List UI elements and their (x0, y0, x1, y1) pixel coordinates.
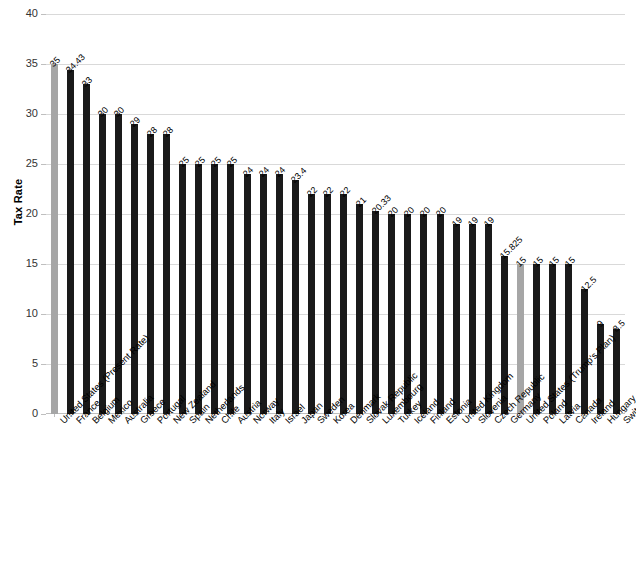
bar[interactable] (581, 289, 588, 414)
x-axis-category-label[interactable]: Greece (139, 418, 146, 425)
gridline (46, 64, 625, 65)
x-tick-mark (553, 414, 554, 417)
x-tick-mark (424, 414, 425, 417)
x-axis-category-label[interactable]: Netherlands (203, 418, 210, 425)
x-axis-category-label[interactable]: Hungary (605, 418, 612, 425)
bar[interactable] (67, 70, 74, 414)
x-tick-mark (488, 414, 489, 417)
bar[interactable] (453, 224, 460, 414)
x-tick-mark (199, 414, 200, 417)
x-tick-mark (360, 414, 361, 417)
bar[interactable] (372, 211, 379, 414)
x-tick-mark (456, 414, 457, 417)
x-tick-mark (167, 414, 168, 417)
bar[interactable] (388, 214, 395, 414)
bar[interactable] (83, 84, 90, 414)
x-tick-mark (311, 414, 312, 417)
x-axis-category-label[interactable]: Japan (300, 418, 307, 425)
x-axis-category-label[interactable]: United States (Present Rate) (58, 418, 65, 425)
bar[interactable] (179, 164, 186, 414)
y-axis-title: Tax Rate (12, 162, 24, 242)
bar[interactable] (163, 134, 170, 414)
y-tick-label: 40 (10, 8, 38, 19)
bar[interactable] (51, 64, 58, 414)
x-tick-mark (327, 414, 328, 417)
bar[interactable] (420, 214, 427, 414)
y-tick-label: 0 (10, 408, 38, 419)
bar[interactable] (211, 164, 218, 414)
bar[interactable] (227, 164, 234, 414)
bar[interactable] (131, 124, 138, 414)
x-tick-mark (537, 414, 538, 417)
x-axis-category-label[interactable]: Australia (123, 418, 130, 425)
x-axis-labels: United States (Present Rate)FranceBelgiu… (46, 418, 625, 565)
x-tick-mark (102, 414, 103, 417)
x-axis-category-label[interactable]: Norway (251, 418, 258, 425)
bar[interactable] (308, 194, 315, 414)
x-tick-mark (118, 414, 119, 417)
bar[interactable] (260, 174, 267, 414)
y-tick-label: 20 (10, 208, 38, 219)
x-axis-category-label[interactable]: Finland (428, 418, 435, 425)
x-axis-category-label[interactable]: Portugal (155, 418, 162, 425)
bar[interactable] (147, 134, 154, 414)
x-axis-category-label[interactable]: Czech Republic (493, 418, 500, 425)
x-axis-category-label[interactable]: Slovak Republic (364, 418, 371, 425)
y-tick-label: 5 (10, 358, 38, 369)
x-axis-category-label[interactable]: Iceland (412, 418, 419, 425)
bar[interactable] (565, 264, 572, 414)
x-axis-category-label[interactable]: Slovenia (476, 418, 483, 425)
x-axis-category-label[interactable]: France (74, 418, 81, 425)
bar[interactable] (276, 174, 283, 414)
x-axis-category-label[interactable]: Austria (235, 418, 242, 425)
x-axis-category-label[interactable]: Luxembourg (380, 418, 387, 425)
x-axis-category-label[interactable]: Switzerland (621, 418, 628, 425)
x-axis-category-label[interactable]: Belgium (90, 418, 97, 425)
x-tick-mark (231, 414, 232, 417)
x-axis-category-label[interactable]: Mexico (107, 418, 114, 425)
x-axis-category-label[interactable]: Ireland (589, 418, 596, 425)
bar[interactable] (292, 180, 299, 414)
bar[interactable] (356, 204, 363, 414)
bar[interactable] (324, 194, 331, 414)
bar-value-label: 23.4 (290, 166, 309, 185)
x-axis-category-label[interactable]: Germany (509, 418, 516, 425)
y-tick-label: 10 (10, 308, 38, 319)
x-axis-category-label[interactable]: Italy (267, 418, 274, 425)
x-tick-mark (520, 414, 521, 417)
x-axis-category-label[interactable]: Spain (187, 418, 194, 425)
bar[interactable] (340, 194, 347, 414)
x-axis-category-label[interactable]: Chile (219, 418, 226, 425)
x-axis-category-label[interactable]: Korea (332, 418, 339, 425)
x-axis-category-label[interactable]: United States (Trump's Plan) (525, 418, 532, 425)
bar[interactable] (437, 214, 444, 414)
y-tick-label: 15 (10, 258, 38, 269)
x-axis-category-label[interactable]: Poland (541, 418, 548, 425)
x-axis-category-label[interactable]: Latvia (557, 418, 564, 425)
x-axis-category-label[interactable]: Canada (573, 418, 580, 425)
x-axis-category-label[interactable]: Turkey (396, 418, 403, 425)
x-tick-mark (295, 414, 296, 417)
x-tick-mark (585, 414, 586, 417)
y-tick-mark (41, 414, 46, 415)
x-tick-mark (263, 414, 264, 417)
x-tick-mark (376, 414, 377, 417)
x-tick-mark (504, 414, 505, 417)
x-tick-mark (279, 414, 280, 417)
x-axis-category-label[interactable]: New Zealand (171, 418, 178, 425)
x-axis-category-label[interactable]: Israel (283, 418, 290, 425)
x-tick-mark (134, 414, 135, 417)
x-axis-category-label[interactable]: Denmark (348, 418, 355, 425)
bar[interactable] (195, 164, 202, 414)
x-axis-category-label[interactable]: Sweden (316, 418, 323, 425)
x-axis-category-label[interactable]: Estonia (444, 418, 451, 425)
x-tick-mark (70, 414, 71, 417)
bar[interactable] (244, 174, 251, 414)
x-tick-mark (247, 414, 248, 417)
x-axis-category-label[interactable]: United Kingdom (460, 418, 467, 425)
bar[interactable] (469, 224, 476, 414)
x-tick-mark (472, 414, 473, 417)
y-tick-label: 30 (10, 108, 38, 119)
y-tick-label: 35 (10, 58, 38, 69)
bar-chart: Tax Rate 0510152025303540 3534.433330302… (0, 0, 636, 565)
